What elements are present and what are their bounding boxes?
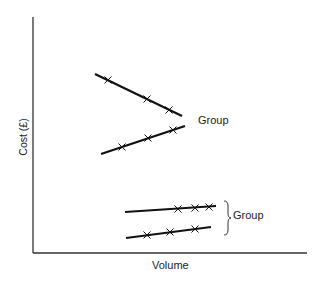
group-bracket-icon xyxy=(224,201,231,235)
x-axis-label: Volume xyxy=(152,259,189,271)
y-axis-label: Cost (£) xyxy=(17,118,29,155)
diagram-canvas xyxy=(0,0,324,283)
group-label-upper: Group xyxy=(198,114,229,126)
group-label-lower: Group xyxy=(233,209,264,221)
line-3 xyxy=(125,206,216,212)
lines-layer xyxy=(95,74,216,239)
